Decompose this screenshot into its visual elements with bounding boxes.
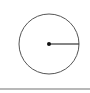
circle-diagram <box>0 0 90 93</box>
bottom-divider <box>0 88 90 90</box>
center-point <box>47 42 51 46</box>
